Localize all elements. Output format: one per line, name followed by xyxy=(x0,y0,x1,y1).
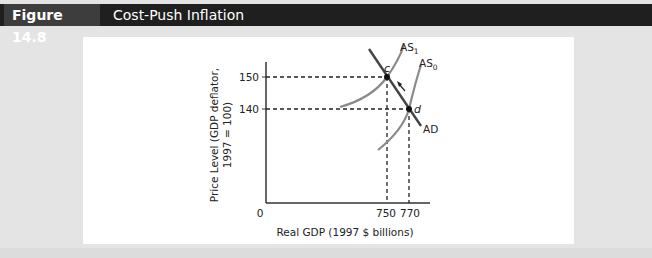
figure-title: Cost-Push Inflation xyxy=(113,4,244,26)
as1-label: AS1 xyxy=(400,41,419,56)
y-axis-label-line2: 1997 = 100) xyxy=(221,102,233,168)
cut-off-text-strip xyxy=(0,248,652,258)
figure-number: Figure 14.8 xyxy=(4,4,100,26)
y-tick-150: 150 xyxy=(239,71,259,83)
x-tick-750: 750 xyxy=(376,207,396,219)
ad-label: AD xyxy=(423,123,438,135)
as0-label: AS0 xyxy=(419,57,438,72)
x-tick-770: 770 xyxy=(400,207,420,219)
point-c-label: c xyxy=(384,62,390,75)
point-d-label: d xyxy=(414,103,422,116)
figure-header: Figure 14.8 Cost-Push Inflation xyxy=(0,4,652,26)
chart-panel: c d AS1 AS0 AD 150 140 0 750 770 Real GD… xyxy=(83,37,574,244)
y-axis-label-line1: Price Level (GDP deflator, xyxy=(208,68,220,202)
x-axis-label: Real GDP (1997 $ billions) xyxy=(276,226,413,238)
chart: c d AS1 AS0 AD 150 140 0 750 770 Real GD… xyxy=(83,37,574,244)
x-origin: 0 xyxy=(257,207,264,219)
y-tick-140: 140 xyxy=(239,103,259,115)
point-d xyxy=(406,106,412,112)
